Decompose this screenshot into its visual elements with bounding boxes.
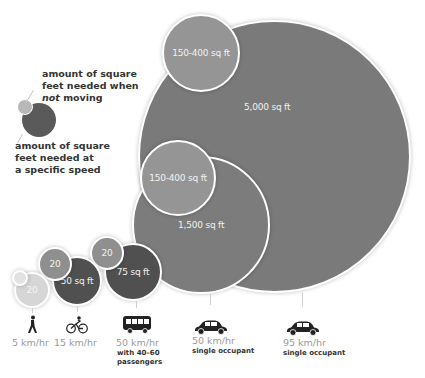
- circle-label: 150-400 sq ft: [172, 48, 230, 58]
- legend-speed-label: amount of square feet needed at a specif…: [15, 140, 110, 176]
- legend-not-moving-label: amount of square feet needed when not mo…: [42, 68, 139, 104]
- circle-car50-parked: 150-400 sq ft: [140, 140, 216, 216]
- speed-label-car50: 50 km/hr: [192, 335, 235, 346]
- speed-label-bike: 15 km/hr: [54, 337, 97, 348]
- tick-walk: [32, 308, 33, 313]
- detail-label-car50: single occupant: [192, 347, 254, 356]
- cyclist-icon: [66, 316, 88, 334]
- speed-label-car95: 95 km/hr: [283, 337, 326, 348]
- legend-italic: not: [42, 92, 60, 103]
- detail-line: passengers: [117, 358, 162, 367]
- tick-bike: [77, 306, 78, 312]
- pedestrian-icon: [25, 315, 39, 335]
- detail-line: with 40–60: [117, 349, 162, 358]
- speed-label-bus: 50 km/hr: [116, 337, 159, 348]
- detail-label-car95: single occupant: [283, 349, 345, 358]
- tick-car95: [302, 293, 303, 307]
- legend-line: feet needed when: [42, 80, 139, 92]
- tick-bus: [136, 301, 137, 308]
- circle-label: 20: [26, 285, 37, 295]
- tick-car50: [210, 294, 211, 305]
- legend-line: a specific speed: [15, 164, 110, 176]
- circle-label: 20: [49, 259, 60, 269]
- circle-label: 75 sq ft: [117, 267, 150, 277]
- legend-rest: moving: [60, 92, 103, 103]
- circle-label: 5,000 sq ft: [244, 102, 290, 112]
- car-icon: [193, 320, 229, 335]
- legend-line: not moving: [42, 92, 139, 104]
- circle-label: 150-400 sq ft: [149, 173, 207, 183]
- circle-label: 1,500 sq ft: [178, 220, 224, 230]
- legend-line: amount of square: [42, 68, 139, 80]
- bus-icon: [122, 314, 152, 334]
- circle-label: 20: [101, 248, 112, 258]
- car-icon: [285, 321, 321, 336]
- circle-label: 50 sq ft: [61, 276, 94, 286]
- legend-line: feet needed at: [15, 152, 110, 164]
- space-per-speed-diagram: 5,000 sq ft 150-400 sq ft 1,500 sq ft 15…: [0, 0, 425, 378]
- legend-line: amount of square: [15, 140, 110, 152]
- detail-label-bus: with 40–60 passengers: [117, 349, 162, 367]
- circle-walk-parked: [12, 270, 28, 286]
- circle-car95-parked: 150-400 sq ft: [162, 14, 240, 92]
- speed-label-walk: 5 km/hr: [12, 337, 49, 348]
